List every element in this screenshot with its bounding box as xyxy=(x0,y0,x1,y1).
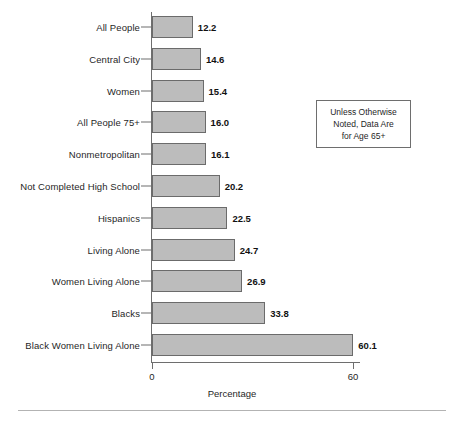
category-label: Hispanics xyxy=(98,212,140,223)
category-label: Women Living Alone xyxy=(52,276,140,287)
bar-value-label: 16.1 xyxy=(211,149,230,160)
category-label: Black Women Living Alone xyxy=(25,340,140,351)
bar xyxy=(152,239,235,261)
x-axis-tick xyxy=(353,362,354,369)
bar-value-label: 26.9 xyxy=(247,276,266,287)
y-axis-tick xyxy=(141,217,152,218)
bar xyxy=(152,143,206,165)
y-axis-tick xyxy=(141,345,152,346)
bar xyxy=(152,302,265,324)
bar-row: Central City14.6 xyxy=(0,47,464,71)
bar-row: Black Women Living Alone60.1 xyxy=(0,333,464,357)
y-axis-tick xyxy=(141,90,152,91)
x-axis-title: Percentage xyxy=(0,388,464,399)
bar-row: Hispanics22.5 xyxy=(0,206,464,230)
bar xyxy=(152,80,204,102)
bar-value-label: 16.0 xyxy=(211,117,230,128)
bottom-divider xyxy=(18,410,446,411)
bar-value-label: 20.2 xyxy=(225,181,244,192)
category-label: Nonmetropolitan xyxy=(69,149,140,160)
bar xyxy=(152,270,242,292)
bar-value-label: 24.7 xyxy=(240,244,259,255)
y-axis-tick xyxy=(141,58,152,59)
bar-row: All People12.2 xyxy=(0,15,464,39)
x-axis-tick-label: 60 xyxy=(348,371,359,382)
category-label: All People xyxy=(96,22,140,33)
bar-value-label: 60.1 xyxy=(358,340,377,351)
age-note-text: Unless OtherwiseNoted, Data Arefor Age 6… xyxy=(327,106,400,142)
y-axis-tick xyxy=(141,281,152,282)
bar-row: Blacks33.8 xyxy=(0,301,464,325)
bar-series: All People12.2Central City14.6Women15.4A… xyxy=(0,12,464,362)
x-axis-tick-label: 0 xyxy=(149,371,154,382)
age-note-line: Noted, Data Are xyxy=(330,118,397,130)
y-axis-tick xyxy=(141,313,152,314)
y-axis-tick xyxy=(141,27,152,28)
bar xyxy=(152,111,206,133)
bar-row: Women15.4 xyxy=(0,79,464,103)
age-note-line: for Age 65+ xyxy=(330,130,397,142)
y-axis-tick xyxy=(141,154,152,155)
bar-value-label: 12.2 xyxy=(198,22,217,33)
x-axis-tick xyxy=(152,362,153,369)
bar xyxy=(152,175,220,197)
bar-row: Not Completed High School20.2 xyxy=(0,174,464,198)
bar xyxy=(152,48,201,70)
category-label: Living Alone xyxy=(88,244,140,255)
y-axis-tick xyxy=(141,249,152,250)
x-axis-line xyxy=(151,362,360,363)
y-axis-tick xyxy=(141,122,152,123)
bar xyxy=(152,207,227,229)
age-note-box: Unless OtherwiseNoted, Data Arefor Age 6… xyxy=(316,100,411,148)
bar-row: Women Living Alone26.9 xyxy=(0,269,464,293)
y-axis-tick xyxy=(141,186,152,187)
bar-value-label: 15.4 xyxy=(209,85,228,96)
bar xyxy=(152,334,353,356)
bar-row: Living Alone24.7 xyxy=(0,238,464,262)
bar-value-label: 22.5 xyxy=(232,212,251,223)
category-label: Blacks xyxy=(111,308,140,319)
bar xyxy=(152,16,193,38)
category-label: All People 75+ xyxy=(77,117,140,128)
age-note-line: Unless Otherwise xyxy=(330,106,397,118)
category-label: Not Completed High School xyxy=(20,181,140,192)
bar-value-label: 14.6 xyxy=(206,53,225,64)
bar-value-label: 33.8 xyxy=(270,308,289,319)
category-label: Central City xyxy=(89,53,140,64)
category-label: Women xyxy=(107,85,140,96)
poverty-rate-bar-chart: All People12.2Central City14.6Women15.4A… xyxy=(0,0,464,421)
